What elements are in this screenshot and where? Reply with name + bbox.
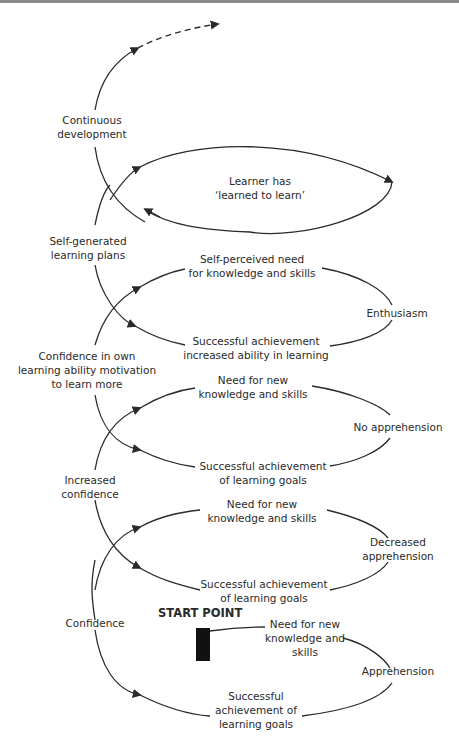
label-line: Increased <box>61 473 118 487</box>
start-point-marker <box>196 628 210 661</box>
label-line: Continuous <box>57 113 126 127</box>
label-line: confidence <box>61 487 118 501</box>
label-line: knowledge and <box>265 631 345 645</box>
label-line: No apprehension <box>353 420 442 434</box>
label-line: of learning goals <box>199 473 326 487</box>
label-no-apprehension: No apprehension <box>353 420 442 434</box>
label-enthusiasm: Enthusiasm <box>366 306 427 320</box>
label-increased-ability: Successful achievement increased ability… <box>183 334 329 362</box>
label-line: increased ability in learning <box>183 348 329 362</box>
label-line: of learning goals <box>200 591 327 605</box>
label-line: development <box>57 127 126 141</box>
label-line: Learner has <box>215 174 305 188</box>
label-line: Successful achievement <box>199 459 326 473</box>
label-line: Apprehension <box>362 664 434 678</box>
label-apprehension: Apprehension <box>362 664 434 678</box>
label-line: Need for new <box>207 497 316 511</box>
label-line: Need for new <box>265 617 345 631</box>
label-continuous-development: Continuous development <box>57 113 126 141</box>
label-line: to learn more <box>18 377 156 391</box>
label-achievement-1: Successful achievement of learning goals <box>215 689 297 731</box>
label-line: apprehension <box>362 549 434 563</box>
label-line: Confidence in own <box>18 349 156 363</box>
label-need-new-knowledge-1: Need for new knowledge and skills <box>265 617 345 659</box>
label-line: ‘learned to learn’ <box>215 188 305 202</box>
label-line: learning goals <box>215 717 297 731</box>
label-need-new-knowledge-2: Need for new knowledge and skills <box>207 497 316 525</box>
label-line: knowledge and skills <box>198 387 307 401</box>
arc-dashed <box>138 24 218 48</box>
label-self-generated-plans: Self-generated learning plans <box>49 234 126 262</box>
label-learned-to-learn: Learner has ‘learned to learn’ <box>215 174 305 202</box>
start-point-label: START POINT <box>158 606 242 620</box>
label-line: Successful achievement <box>200 577 327 591</box>
label-need-new-knowledge-3: Need for new knowledge and skills <box>198 373 307 401</box>
label-line: Confidence <box>65 616 124 630</box>
label-line: Successful achievement <box>183 334 329 348</box>
label-achievement-3: Successful achievement of learning goals <box>199 459 326 487</box>
label-line: learning plans <box>49 248 126 262</box>
label-decreased-apprehension: Apprehension Decreased apprehension <box>362 535 434 563</box>
label-line: Need for new <box>198 373 307 387</box>
label-confidence: Confidence <box>65 616 124 630</box>
label-line: learning ability motivation <box>18 363 156 377</box>
label-line: Enthusiasm <box>366 306 427 320</box>
label-line: Self-generated <box>49 234 126 248</box>
label-self-perceived-need: Self-perceived need for knowledge and sk… <box>189 252 316 280</box>
arc-continuous <box>95 48 138 110</box>
label-line: Decreased <box>362 535 434 549</box>
label-confidence-own-ability: Confidence in own learning ability motiv… <box>18 349 156 391</box>
label-line: Self-perceived need <box>189 252 316 266</box>
label-achievement-2: Successful achievement of learning goals <box>200 577 327 605</box>
label-line: skills <box>265 645 345 659</box>
label-increased-confidence: Increased confidence <box>61 473 118 501</box>
label-line: achievement of <box>215 703 297 717</box>
label-line: for knowledge and skills <box>189 266 316 280</box>
label-line: knowledge and skills <box>207 511 316 525</box>
label-line: Successful <box>215 689 297 703</box>
